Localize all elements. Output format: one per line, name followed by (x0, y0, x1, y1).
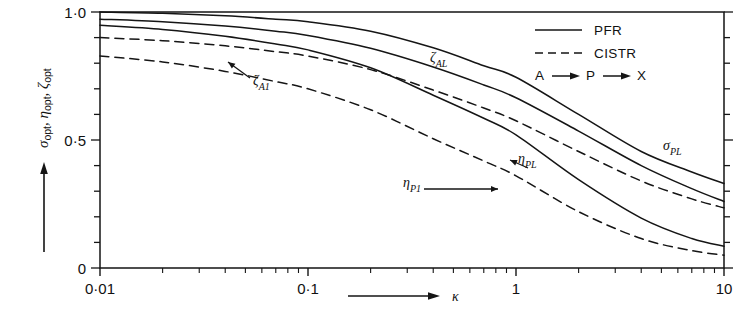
y-tick-label: 1·0 (64, 4, 86, 21)
y-tick-label: 0 (78, 260, 86, 277)
y-tick-label: 0·5 (64, 132, 86, 149)
legend-label-cistr: CISTR (594, 46, 637, 61)
x-tick-label: 0·1 (297, 280, 319, 297)
x-tick-label: 10 (716, 280, 733, 297)
scheme-species-x: X (637, 68, 646, 83)
scheme-species-p: P (586, 68, 595, 83)
scheme-species-a: A (535, 68, 544, 83)
figure-root: 0·010·1110 00·51·0 ζALζA1σPLηPLηP1 κ σop… (0, 0, 747, 314)
chart-canvas: 0·010·1110 00·51·0 ζALζA1σPLηPLηP1 κ σop… (0, 0, 747, 314)
x-axis-title: κ (452, 289, 459, 304)
x-tick-label: 1 (512, 280, 520, 297)
x-tick-label: 0·01 (85, 280, 115, 297)
legend-label-pfr: PFR (594, 23, 622, 38)
